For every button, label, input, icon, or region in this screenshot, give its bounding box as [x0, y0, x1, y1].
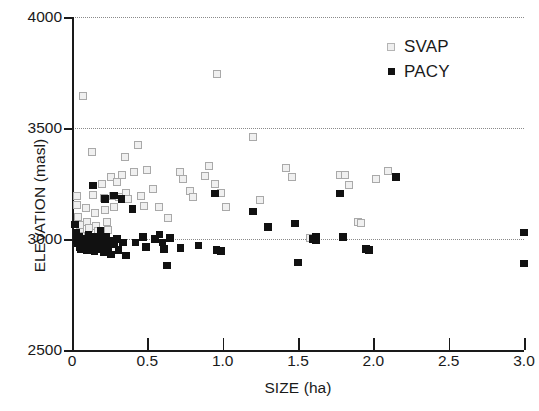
data-point-pacy — [312, 236, 320, 244]
data-point-pacy — [291, 220, 299, 228]
legend-label-pacy: PACY — [404, 62, 450, 82]
y-tick-label: 3000 — [0, 230, 62, 248]
legend: SVAP PACY — [378, 34, 450, 84]
data-point-pacy — [110, 192, 118, 200]
data-point-svap — [73, 192, 81, 200]
data-point-pacy — [139, 233, 147, 241]
y-tick-mark — [64, 17, 72, 19]
data-point-svap — [205, 162, 213, 170]
data-point-svap — [179, 175, 187, 183]
data-point-pacy — [264, 223, 272, 231]
data-point-svap — [164, 214, 172, 222]
data-point-svap — [110, 203, 118, 211]
x-tick-label: 2.5 — [438, 352, 460, 370]
data-point-svap — [101, 206, 109, 214]
x-tick-mark — [298, 338, 300, 350]
data-point-svap — [149, 185, 157, 193]
legend-label-svap: SVAP — [404, 37, 449, 57]
x-tick-mark — [524, 338, 526, 350]
data-point-svap — [345, 181, 353, 189]
data-point-svap — [357, 219, 365, 227]
data-point-pacy — [107, 251, 115, 259]
data-point-pacy — [101, 195, 109, 203]
legend-swatch-pacy-wrap — [378, 68, 404, 75]
data-point-svap — [211, 180, 219, 188]
data-point-pacy — [217, 247, 225, 255]
data-point-svap — [88, 148, 96, 156]
data-point-svap — [189, 193, 197, 201]
data-point-svap — [130, 168, 138, 176]
filled-square-icon — [388, 68, 395, 75]
data-point-svap — [118, 171, 126, 179]
data-point-svap — [98, 180, 106, 188]
data-point-svap — [134, 141, 142, 149]
y-tick-mark — [64, 128, 72, 130]
legend-swatch-svap-wrap — [378, 43, 404, 51]
data-point-pacy — [132, 239, 140, 247]
x-tick-label: 0.5 — [137, 352, 159, 370]
x-tick-mark — [373, 338, 375, 350]
legend-item-pacy: PACY — [378, 59, 450, 84]
x-tick-mark — [223, 338, 225, 350]
data-point-pacy — [119, 239, 127, 247]
data-point-pacy — [392, 173, 400, 181]
x-tick-label: 0 — [68, 352, 77, 370]
x-tick-mark — [449, 338, 451, 350]
data-point-svap — [82, 204, 90, 212]
gridline — [72, 128, 524, 129]
data-point-svap — [372, 175, 380, 183]
data-point-svap — [113, 178, 121, 186]
data-point-svap — [143, 166, 151, 174]
x-tick-label: 3.0 — [513, 352, 535, 370]
data-point-pacy — [177, 244, 185, 252]
x-axis-label: SIZE (ha) — [72, 379, 524, 397]
data-point-svap — [155, 203, 163, 211]
data-point-svap — [249, 133, 257, 141]
data-point-svap — [288, 173, 296, 181]
data-point-pacy — [336, 190, 344, 198]
data-point-svap — [341, 171, 349, 179]
data-point-pacy — [160, 245, 168, 253]
data-point-svap — [89, 191, 97, 199]
y-tick-mark — [64, 239, 72, 241]
data-point-svap — [137, 192, 145, 200]
data-point-svap — [282, 164, 290, 172]
x-tick-label: 1.5 — [287, 352, 309, 370]
y-tick-label: 4000 — [0, 8, 62, 26]
data-point-pacy — [520, 260, 528, 268]
data-point-pacy — [122, 252, 130, 260]
data-point-pacy — [156, 231, 164, 239]
data-point-svap — [91, 209, 99, 217]
data-point-pacy — [294, 259, 302, 267]
legend-item-svap: SVAP — [378, 34, 450, 59]
data-point-pacy — [339, 233, 347, 241]
data-point-pacy — [365, 246, 373, 254]
data-point-pacy — [211, 190, 219, 198]
data-point-svap — [73, 201, 81, 209]
data-point-pacy — [71, 221, 79, 229]
data-point-pacy — [129, 205, 137, 213]
x-tick-mark — [72, 338, 74, 350]
data-point-svap — [121, 153, 129, 161]
data-point-svap — [222, 203, 230, 211]
data-point-svap — [201, 172, 209, 180]
y-tick-label: 3500 — [0, 119, 62, 137]
data-point-pacy — [520, 229, 528, 237]
data-point-pacy — [163, 262, 171, 270]
scatter-plot-figure: ELEVATION (masl) SIZE (ha) 2500300035004… — [0, 0, 539, 411]
data-point-pacy — [166, 234, 174, 242]
x-tick-mark — [147, 338, 149, 350]
y-tick-label: 2500 — [0, 341, 62, 359]
data-point-svap — [140, 202, 148, 210]
y-axis-spine — [72, 17, 74, 350]
data-point-pacy — [142, 243, 150, 251]
gridline — [72, 17, 524, 18]
x-tick-label: 1.0 — [212, 352, 234, 370]
data-point-svap — [256, 196, 264, 204]
data-point-pacy — [115, 246, 123, 254]
open-square-icon — [387, 43, 395, 51]
data-point-pacy — [195, 242, 203, 250]
data-point-pacy — [89, 182, 97, 190]
data-point-svap — [79, 92, 87, 100]
data-point-pacy — [249, 208, 257, 216]
